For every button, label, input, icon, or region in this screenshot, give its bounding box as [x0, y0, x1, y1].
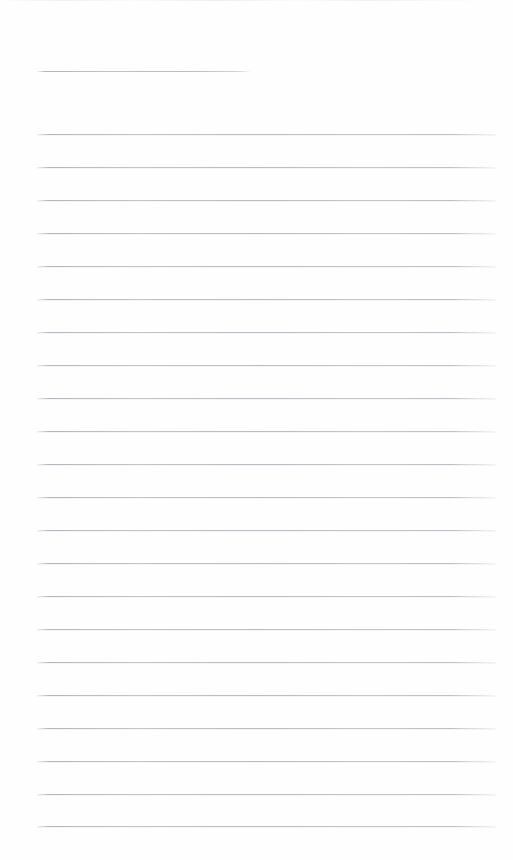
notepaper-page [0, 0, 513, 860]
ruled-line[interactable] [37, 695, 496, 696]
ruled-line[interactable] [37, 794, 496, 795]
ruled-line[interactable] [37, 563, 496, 564]
ruled-line[interactable] [37, 431, 496, 432]
ruled-line[interactable] [37, 826, 496, 827]
top-edge-rule [0, 0, 513, 1]
ruled-line[interactable] [37, 398, 496, 399]
title-rule[interactable] [37, 71, 250, 72]
ruled-line[interactable] [37, 662, 496, 663]
ruled-line[interactable] [37, 464, 496, 465]
ruled-line[interactable] [37, 596, 496, 597]
ruled-line[interactable] [37, 134, 496, 135]
ruled-line[interactable] [37, 728, 496, 729]
ruled-line[interactable] [37, 167, 496, 168]
ruled-line[interactable] [37, 332, 496, 333]
ruled-line[interactable] [37, 299, 496, 300]
ruled-line[interactable] [37, 233, 496, 234]
ruled-line[interactable] [37, 365, 496, 366]
ruled-line[interactable] [37, 200, 496, 201]
ruled-line[interactable] [37, 266, 496, 267]
ruled-line[interactable] [37, 761, 496, 762]
ruled-line[interactable] [37, 497, 496, 498]
ruled-line[interactable] [37, 629, 496, 630]
ruled-line[interactable] [37, 530, 496, 531]
